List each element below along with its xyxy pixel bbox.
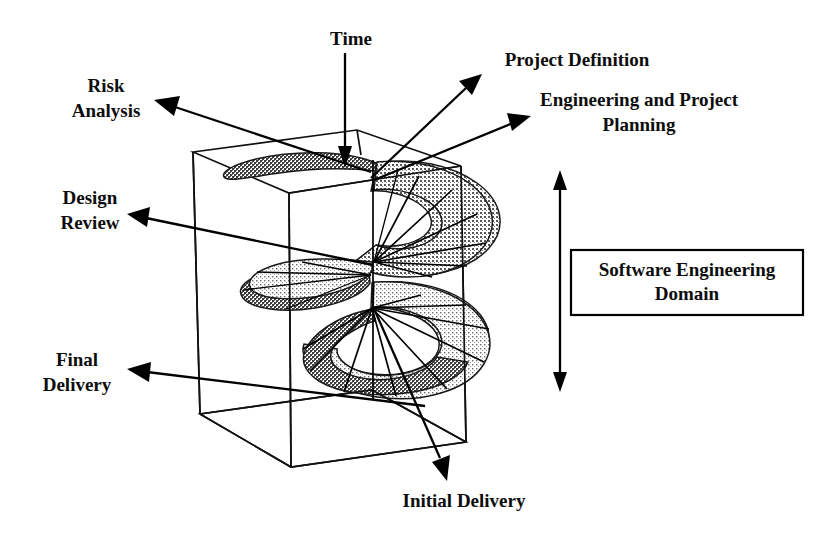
domain-box-label-line1: Software Engineering xyxy=(599,259,776,280)
design-review-label-line2: Review xyxy=(60,212,119,233)
engineering-planning-label-line2: Planning xyxy=(603,114,676,135)
spiral-model-diagram: Time Risk Analysis Design Review Final D… xyxy=(0,0,839,541)
initial-delivery-label: Initial Delivery xyxy=(403,490,526,511)
design-review-label-line1: Design xyxy=(63,187,118,208)
risk-analysis-label-line1: Risk xyxy=(88,75,125,96)
final-delivery-label-line1: Final xyxy=(56,349,98,370)
engineering-planning-label-line1: Engineering and Project xyxy=(540,89,739,110)
domain-box-label-line2: Domain xyxy=(655,283,720,304)
time-label: Time xyxy=(330,28,372,49)
project-definition-label: Project Definition xyxy=(505,49,650,70)
risk-analysis-label-line2: Analysis xyxy=(72,100,141,121)
final-delivery-label-line2: Delivery xyxy=(43,374,112,395)
